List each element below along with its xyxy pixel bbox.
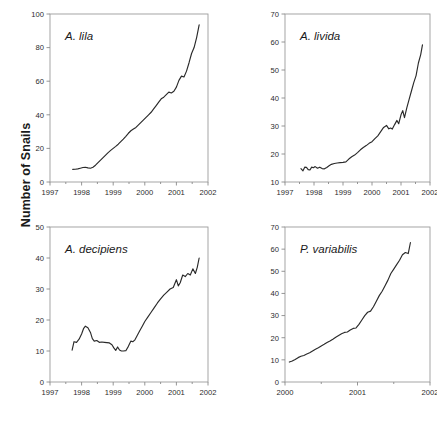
- panel-title: A. decipiens: [64, 243, 128, 255]
- x-tick-label: 1998: [306, 188, 323, 197]
- x-tick-label: 2001: [349, 388, 366, 397]
- x-tick-label: 2002: [200, 388, 217, 397]
- x-tick-label: 1997: [42, 388, 59, 397]
- y-tick-label: 70: [271, 223, 279, 232]
- y-tick-label: 20: [36, 316, 44, 325]
- y-tick-label: 60: [36, 77, 44, 86]
- y-tick-label: 40: [271, 289, 279, 298]
- x-tick-label: 2000: [277, 388, 294, 397]
- y-tick-label: 70: [271, 10, 279, 19]
- y-tick-label: 0: [275, 378, 279, 387]
- data-series-line: [73, 25, 199, 169]
- y-tick-label: 20: [36, 144, 44, 153]
- multi-panel-plot: 020406080100199719981999200020012002A. l…: [0, 0, 437, 425]
- data-series-line: [301, 45, 423, 171]
- x-tick-label: 2002: [422, 188, 437, 197]
- x-tick-label: 2000: [136, 388, 153, 397]
- x-tick-label: 1997: [42, 188, 59, 197]
- x-tick-label: 2001: [168, 188, 185, 197]
- y-tick-label: 40: [36, 254, 44, 263]
- x-tick-label: 1997: [277, 188, 294, 197]
- y-tick-label: 10: [36, 347, 44, 356]
- y-tick-label: 0: [40, 178, 44, 187]
- x-tick-label: 2001: [393, 188, 410, 197]
- y-tick-label: 10: [271, 356, 279, 365]
- y-tick-label: 50: [271, 267, 279, 276]
- data-series-line: [72, 258, 199, 351]
- x-tick-label: 1999: [105, 388, 122, 397]
- x-tick-label: 1999: [335, 188, 352, 197]
- y-tick-label: 40: [271, 94, 279, 103]
- y-tick-label: 80: [36, 43, 44, 52]
- x-tick-label: 1999: [105, 188, 122, 197]
- y-tick-label: 20: [271, 334, 279, 343]
- data-series-line: [289, 243, 410, 363]
- y-tick-label: 60: [271, 245, 279, 254]
- x-tick-label: 1998: [73, 388, 90, 397]
- panel-top-left: 020406080100199719981999200020012002A. l…: [31, 10, 216, 197]
- x-tick-label: 2000: [136, 188, 153, 197]
- x-tick-label: 2001: [168, 388, 185, 397]
- panel-title: A. lila: [64, 30, 93, 42]
- y-tick-label: 100: [31, 10, 44, 19]
- y-tick-label: 20: [271, 150, 279, 159]
- y-tick-label: 60: [271, 38, 279, 47]
- y-tick-label: 50: [271, 66, 279, 75]
- y-tick-label: 30: [36, 285, 44, 294]
- panel-bottom-right: 010203040506070200020012002P. variabilis: [271, 223, 437, 397]
- y-tick-label: 30: [271, 311, 279, 320]
- x-tick-label: 1998: [73, 188, 90, 197]
- y-tick-label: 0: [40, 378, 44, 387]
- x-tick-label: 2000: [364, 188, 381, 197]
- x-tick-label: 2002: [200, 188, 217, 197]
- panel-bottom-left: 01020304050199719981999200020012002A. de…: [36, 223, 217, 397]
- y-axis-title: Number of Snails: [19, 105, 33, 245]
- panel-title: A. livida: [299, 30, 340, 42]
- snail-abundance-figure: Number of Snails 02040608010019971998199…: [0, 0, 437, 425]
- y-tick-label: 30: [271, 122, 279, 131]
- y-tick-label: 40: [36, 111, 44, 120]
- y-tick-label: 50: [36, 223, 44, 232]
- panel-top-right: 10203040506070199719981999200020012002A.…: [271, 10, 437, 197]
- x-tick-label: 2002: [422, 388, 437, 397]
- y-tick-label: 10: [271, 178, 279, 187]
- panel-title: P. variabilis: [300, 243, 358, 255]
